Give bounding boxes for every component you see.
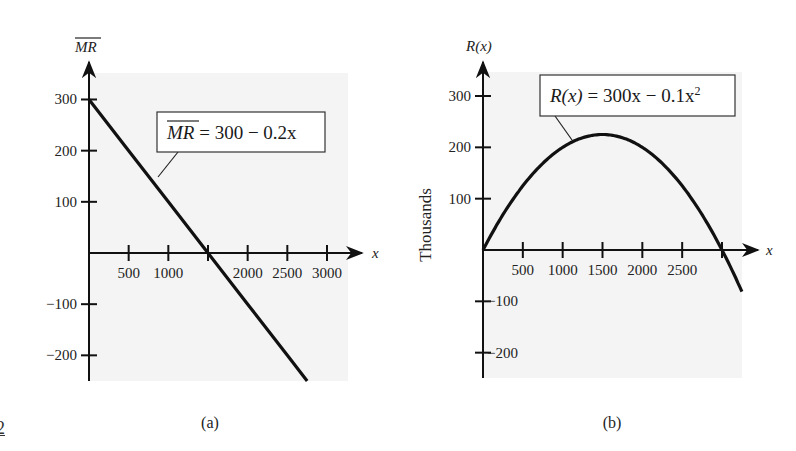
chart-b-caption: (b): [603, 414, 622, 432]
chart-a-y-axis-label: MR: [74, 39, 97, 55]
y-tick-label: 100: [449, 191, 472, 207]
chart-b-panel-bg: [483, 72, 742, 378]
chart-a-equation-label: MR = 300 − 0.2x: [166, 122, 297, 143]
x-tick-label: 2000: [627, 262, 657, 278]
x-tick-label: 3000: [312, 265, 342, 281]
y-tick-label: 200: [449, 139, 472, 155]
x-tick-label: 2000: [233, 265, 263, 281]
y-tick-label: −200: [487, 345, 518, 361]
x-tick-label: 500: [117, 265, 140, 281]
chart-a: MR x 300200100−100−200 50010002000250030…: [46, 38, 379, 432]
x-tick-label: 1500: [588, 262, 618, 278]
y-tick-label: 100: [55, 194, 78, 210]
y-tick-label: −100: [46, 296, 77, 312]
chart-b-equation-label: R(x) = 300x − 0.1x2: [549, 84, 700, 107]
y-tick-label: 300: [55, 91, 78, 107]
y-tick-label: 300: [449, 88, 472, 104]
chart-a-caption: (a): [201, 414, 219, 432]
y-tick-label: −100: [487, 293, 518, 309]
x-tick-label: 500: [512, 262, 535, 278]
chart-b-thousands-label: Thousands: [416, 188, 435, 262]
figure: MR x 300200100−100−200 50010002000250030…: [0, 0, 796, 451]
x-tick-label: 2500: [272, 265, 302, 281]
chart-b-x-axis-label: x: [765, 242, 773, 258]
chart-b-y-axis-label: R(x): [465, 38, 492, 55]
y-tick-label: −200: [46, 347, 77, 363]
chart-a-x-axis-label: x: [371, 245, 379, 261]
y-tick-label: 200: [55, 143, 78, 159]
x-tick-label: 1000: [548, 262, 578, 278]
x-tick-label: 1000: [153, 265, 183, 281]
chart-b: R(x) Thousands x 300200100−100−200 50010…: [416, 38, 773, 432]
x-tick-label: 2500: [667, 262, 697, 278]
